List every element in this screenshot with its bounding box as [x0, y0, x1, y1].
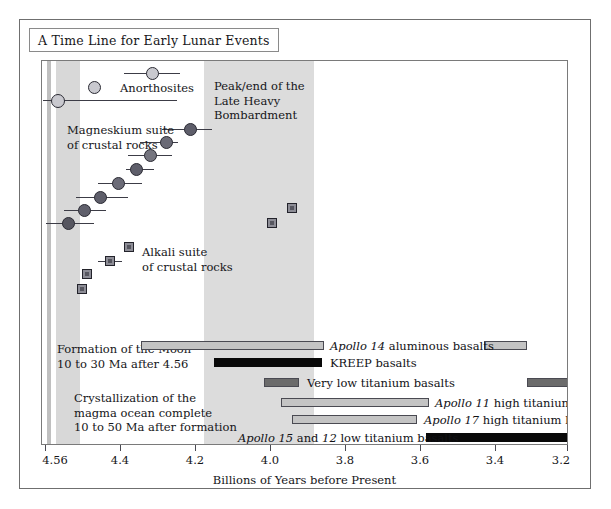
- plot-area: Anorthosites Magneskium suite of crustal…: [41, 60, 568, 445]
- bar-label-very-low-titanium: Very low titanium basalts: [307, 376, 455, 390]
- data-point-alkali: [82, 269, 92, 279]
- data-point-mg-suite: [130, 163, 143, 176]
- data-point-anorthosite: [51, 94, 65, 108]
- annotation-magma-ocean: Crystallization of the magma ocean compl…: [74, 391, 237, 435]
- data-point-anorthosite: [146, 67, 159, 80]
- bar-label-apollo17: Apollo 17 high titanium basalts: [424, 413, 568, 427]
- bar-label-apollo11: Apollo 11 high titanium basalts: [435, 396, 568, 410]
- bar-very-low-titanium-basalts: [527, 378, 568, 387]
- bar-label-kreep: KREEP basalts: [330, 356, 417, 370]
- data-point-mg-suite: [112, 177, 125, 190]
- axis-tick: [420, 445, 421, 451]
- axis-tick-label: 3.2: [552, 453, 570, 467]
- annotation-late-heavy-bombardment: Peak/end of the Late Heavy Bombardment: [214, 79, 305, 123]
- axis-tick-label: 4.4: [111, 453, 129, 467]
- data-point-mg-suite: [78, 204, 91, 217]
- x-axis-label: Billions of Years before Present: [41, 473, 568, 487]
- figure-page: A Time Line for Early Lunar Events: [0, 0, 611, 509]
- axis-tick-label: 3.4: [486, 453, 504, 467]
- axis-tick-label: 4.0: [261, 453, 279, 467]
- axis-tick-label: 3.8: [336, 453, 354, 467]
- axis-tick: [345, 445, 346, 451]
- page-title: A Time Line for Early Lunar Events: [38, 33, 270, 48]
- axis-tick: [45, 445, 46, 451]
- bar-kreep-basalts: [214, 358, 322, 367]
- data-point-mg-suite: [184, 123, 197, 136]
- axis-tick-label: 3.6: [411, 453, 429, 467]
- axis-tick-label: 4.2: [186, 453, 204, 467]
- band-formation-of-the-moon: [47, 61, 51, 444]
- axis-tick: [495, 445, 496, 451]
- x-axis: 4.56 4.4 4.2 4.0 3.8 3.6 3.4 3.2 Billion…: [41, 445, 568, 446]
- bar-apollo14-aluminous-basalts: [141, 341, 324, 350]
- data-point-anorthosite: [88, 81, 101, 94]
- axis-tick: [567, 445, 568, 451]
- data-point-alkali: [267, 218, 277, 228]
- data-point-mg-suite: [94, 191, 107, 204]
- bar-very-low-titanium-basalts: [264, 378, 299, 387]
- annotation-anorthosites: Anorthosites: [120, 81, 194, 96]
- data-point-alkali: [124, 242, 134, 252]
- band-magma-ocean: [56, 61, 80, 444]
- annotation-alkali-suite: Alkali suite of crustal rocks: [142, 245, 233, 274]
- axis-tick: [120, 445, 121, 451]
- bar-apollo17-high-titanium-basalts: [292, 415, 417, 424]
- bar-apollo11-high-titanium-basalts: [281, 398, 429, 407]
- data-point-mg-suite: [62, 217, 75, 230]
- axis-tick: [195, 445, 196, 451]
- bar-label-apollo14: Apollo 14 aluminous basalts: [330, 339, 494, 353]
- annotation-magnesium-suite: Magneskium suite of crustal rocks: [67, 123, 174, 152]
- axis-tick-label: 4.56: [42, 453, 68, 467]
- data-point-alkali: [77, 284, 87, 294]
- data-point-alkali: [287, 203, 297, 213]
- data-point-alkali: [105, 256, 115, 266]
- figure-title-box: A Time Line for Early Lunar Events: [29, 28, 279, 52]
- axis-tick: [270, 445, 271, 451]
- bar-label-apollo15-12: Apollo 15 and 12 low titanium basalts: [238, 431, 459, 445]
